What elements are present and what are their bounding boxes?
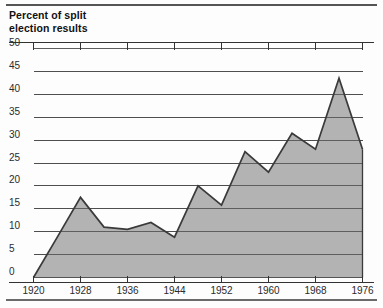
y-tick-labels-group: 05101520253035404550 — [9, 37, 21, 277]
x-tick-label-1976: 1976 — [351, 285, 374, 296]
y-tick-label-20: 20 — [9, 174, 21, 185]
x-tick-labels-group: 19201928193619441952196019681976 — [22, 285, 374, 296]
y-tick-label-50: 50 — [9, 37, 21, 48]
y-tick-label-10: 10 — [9, 220, 21, 231]
x-tick-label-1928: 1928 — [69, 285, 92, 296]
y-tick-label-30: 30 — [9, 129, 21, 140]
y-tick-label-5: 5 — [9, 243, 15, 254]
bottom-rule — [6, 299, 377, 301]
x-tick-label-1968: 1968 — [304, 285, 327, 296]
x-tick-label-1952: 1952 — [210, 285, 233, 296]
area-fill — [34, 78, 363, 277]
y-tick-label-35: 35 — [9, 106, 21, 117]
area-series-group — [34, 71, 363, 277]
x-tick-label-1960: 1960 — [257, 285, 280, 296]
y-tick-label-40: 40 — [9, 83, 21, 94]
plot-area: 05101520253035404550 1920192819361944195… — [0, 0, 383, 308]
y-tick-label-0: 0 — [9, 266, 15, 277]
x-tick-label-1920: 1920 — [22, 285, 45, 296]
y-tick-label-25: 25 — [9, 152, 21, 163]
area-chart-svg: 05101520253035404550 1920192819361944195… — [0, 0, 383, 308]
chart-figure: Percent of split election results 051015… — [0, 0, 383, 308]
y-tick-label-45: 45 — [9, 60, 21, 71]
y-tick-label-15: 15 — [9, 197, 21, 208]
x-tick-label-1936: 1936 — [116, 285, 139, 296]
x-tick-label-1944: 1944 — [163, 285, 186, 296]
